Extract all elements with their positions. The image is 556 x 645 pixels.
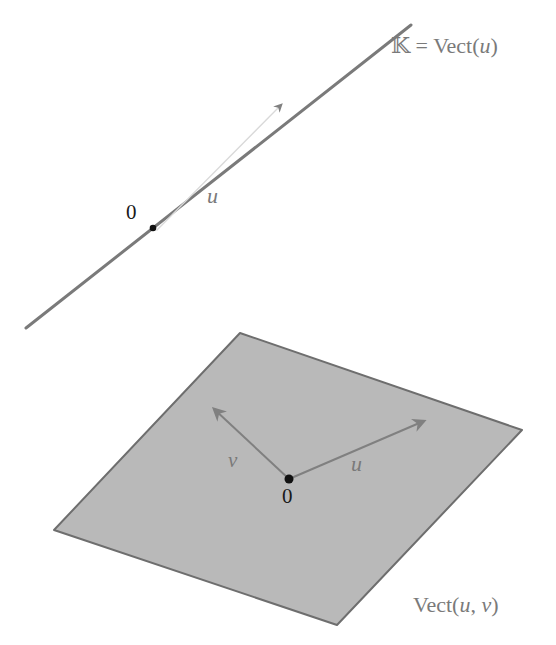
line-k-label-var: u xyxy=(480,33,491,58)
line-k-label: 𝕂 = Vect(u) xyxy=(391,35,498,57)
plane-label-prefix: Vect( xyxy=(413,592,459,617)
plane-group xyxy=(54,333,522,625)
line-k-label-suffix: ) xyxy=(491,33,498,58)
line-origin-point xyxy=(150,225,157,232)
line-k xyxy=(26,25,411,328)
plane-origin-label: 0 xyxy=(282,486,293,507)
line-group xyxy=(26,25,411,328)
plane-label-u: u xyxy=(459,592,470,617)
line-vector-u-arrow xyxy=(157,105,282,231)
line-origin-label: 0 xyxy=(126,202,137,223)
line-vector-u-label: u xyxy=(207,185,218,207)
plane-vect-uv-label: Vect(u, v) xyxy=(413,594,499,616)
plane-vector-v-label: v xyxy=(228,450,237,471)
line-k-label-prefix: 𝕂 = Vect( xyxy=(391,33,480,58)
plane-label-suffix: ) xyxy=(491,592,498,617)
plane-label-sep: , xyxy=(470,592,481,617)
plane-vector-u-label: u xyxy=(351,453,362,475)
plane-origin-point xyxy=(285,475,294,484)
plane-label-v: v xyxy=(481,592,491,617)
vector-space-diagram xyxy=(0,0,556,645)
